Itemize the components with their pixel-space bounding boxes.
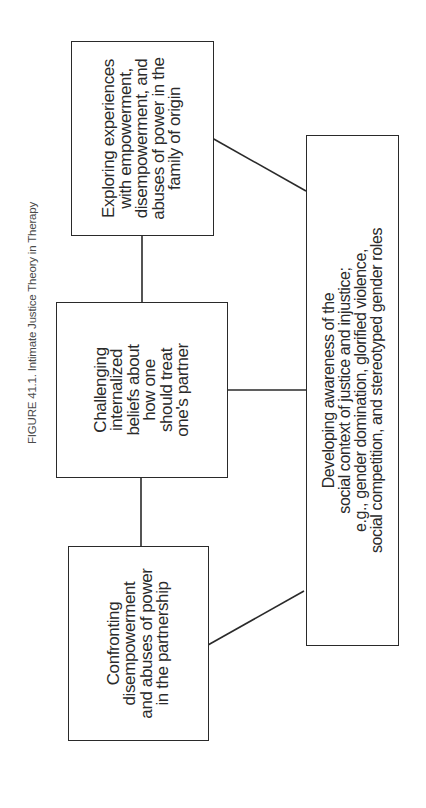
node-family-of-origin: Exploring experiences with empowerment, … (71, 41, 214, 236)
node-internalized-beliefs-text: Challenging internalized beliefs about h… (93, 343, 192, 437)
diagram-canvas: FIGURE 41.1. Intimate Justice Theory in … (0, 0, 426, 808)
node-partnership-text: Confronting disempowerment and abuses of… (106, 568, 172, 718)
edge-family-to-social (212, 138, 306, 191)
node-family-of-origin-text: Exploring experiences with empowerment, … (101, 57, 184, 219)
edge-partnership-to-social (208, 591, 304, 645)
node-internalized-beliefs: Challenging internalized beliefs about h… (56, 302, 228, 478)
node-partnership: Confronting disempowerment and abuses of… (68, 546, 209, 741)
node-social-context-text: Developing awareness of the social conte… (321, 228, 385, 553)
node-social-context: Developing awareness of the social conte… (306, 135, 399, 646)
